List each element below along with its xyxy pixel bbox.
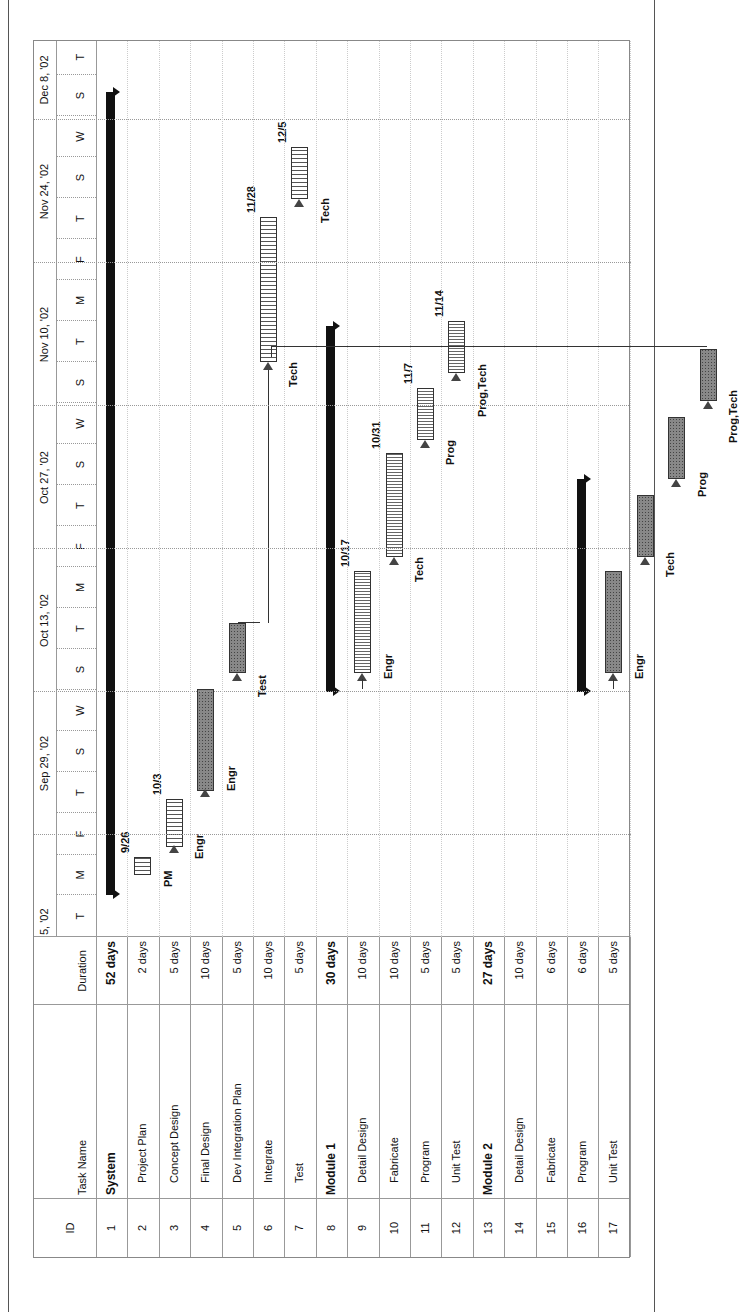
row-gridline [316, 41, 317, 937]
bar-dev-integration-plan[interactable] [229, 623, 246, 673]
table-row[interactable]: 5Dev Integration Plan5 days [222, 937, 253, 1257]
row-gridline [347, 41, 348, 937]
bar-fabricate-m2[interactable] [637, 495, 654, 557]
task-name: Fabricate [382, 1137, 407, 1183]
timescale-minor-tick: M [74, 280, 86, 321]
table-row[interactable]: 3Concept Design5 days [159, 937, 190, 1257]
timescale-tick-line [56, 279, 96, 280]
timescale-divider [56, 41, 57, 937]
finish-date-label: 11/7 [402, 363, 414, 384]
bar-project-plan[interactable] [134, 857, 151, 875]
timescale-minor-tick: W [74, 116, 86, 157]
dependency-line [271, 347, 272, 357]
dependency-arrow [169, 845, 179, 853]
resource-label: Prog [444, 440, 456, 465]
bar-unit-test-m1[interactable] [448, 321, 465, 373]
table-row[interactable]: 2Project Plan2 days [127, 937, 158, 1257]
table-row[interactable]: 14Detail Design10 days [504, 937, 535, 1257]
timescale-minor-tick: T [74, 321, 86, 362]
row-gridline [284, 41, 285, 937]
task-name: Test [287, 1163, 312, 1183]
summary-bar-module-1[interactable] [326, 326, 335, 692]
resource-label: Tech [413, 557, 425, 582]
task-name: Concept Design [162, 1105, 187, 1183]
timescale-minor-tick: S [74, 649, 86, 690]
bar-fabricate-m1[interactable] [386, 453, 403, 557]
row-gridline [410, 41, 411, 937]
timescale-tick-line [56, 566, 96, 567]
bar-test[interactable] [291, 147, 308, 199]
bar-program-m1[interactable] [417, 388, 434, 440]
bar-detail-design-m1[interactable] [354, 571, 371, 673]
row-gridline [159, 41, 160, 937]
bar-program-m2[interactable] [668, 417, 685, 479]
header-id: ID [64, 1199, 76, 1257]
timescale-minor-tick: S [74, 157, 86, 198]
table-row[interactable]: 6Integrate10 days [253, 937, 284, 1257]
table-row[interactable]: 8Module 130 days [316, 937, 347, 1257]
task-id: 8 [319, 1199, 344, 1257]
task-name: Program [413, 1141, 438, 1183]
timescale-tick-line [56, 115, 96, 116]
timescale-minor-tick: W [74, 690, 86, 731]
bar-detail-design-m2[interactable] [605, 571, 622, 673]
timescale-minor-tick: W [74, 403, 86, 444]
dependency-arrow [703, 401, 713, 409]
dependency-arrow [671, 479, 681, 487]
timescale-tick-line [56, 443, 96, 444]
task-duration: 10 days [507, 941, 532, 1005]
task-id: 16 [570, 1199, 595, 1257]
table-row[interactable]: 15Fabricate6 days [536, 937, 567, 1257]
timescale-minor-tick: T [74, 772, 86, 813]
bar-concept-design[interactable] [166, 799, 183, 847]
timescale-minor-tick: F [74, 239, 86, 280]
task-duration: 52 days [99, 941, 124, 1005]
timescale-tick-line [56, 156, 96, 157]
table-row[interactable]: 10Fabricate10 days [379, 937, 410, 1257]
table-row[interactable]: 16Program6 days [567, 937, 598, 1257]
summary-bar-module-2[interactable] [577, 479, 586, 692]
timescale-tick-line [56, 689, 96, 690]
table-row[interactable]: 7Test5 days [284, 937, 315, 1257]
task-duration: 6 days [539, 941, 564, 1005]
table-row[interactable]: 9Detail Design10 days [347, 937, 378, 1257]
task-id: 6 [256, 1199, 281, 1257]
bar-integrate[interactable] [260, 217, 277, 362]
timescale-tick-line [56, 648, 96, 649]
timescale-minor-tick: S [74, 444, 86, 485]
bar-unit-test-m2[interactable] [700, 349, 717, 401]
table-row[interactable]: 11Program5 days [410, 937, 441, 1257]
task-id: 9 [350, 1199, 375, 1257]
task-name: Final Design [193, 1122, 218, 1183]
summary-bar-system[interactable] [106, 92, 115, 895]
resource-label: Engr [633, 654, 645, 679]
row-gridline [222, 41, 223, 937]
timescale-tick-line [56, 74, 96, 75]
table-row[interactable]: 1System52 days [96, 937, 127, 1257]
task-duration: 5 days [162, 941, 187, 1005]
task-name: Unit Test [601, 1140, 626, 1183]
resource-label: Engr [225, 766, 237, 791]
resource-label: Engr [193, 834, 205, 859]
task-name: Program [570, 1141, 595, 1183]
table-row[interactable]: 4Final Design10 days [190, 937, 221, 1257]
dependency-line [271, 345, 707, 347]
table-row[interactable]: 13Module 227 days [473, 937, 504, 1257]
timescale-minor-tick: T [74, 198, 86, 239]
timescale-tick-line [56, 484, 96, 485]
table-row[interactable]: 12Unit Test5 days [441, 937, 472, 1257]
task-name: Detail Design [350, 1118, 375, 1183]
resource-label: Prog [696, 472, 708, 497]
finish-date-label: 11/28 [245, 186, 257, 213]
task-id: 13 [476, 1199, 501, 1257]
row-gridline [598, 41, 599, 937]
task-duration: 5 days [413, 941, 438, 1005]
dependency-arrow [263, 362, 273, 370]
timescale-minor-tick: S [74, 75, 86, 116]
timescale-minor-tick: F [74, 526, 86, 567]
table-row[interactable]: 17Unit Test5 days [598, 937, 629, 1257]
chart-area: PM 9/26 Engr 10/3 Engr Test Tech 11/28 T… [96, 39, 631, 937]
bar-final-design[interactable] [197, 689, 214, 791]
row-divider [630, 937, 631, 1257]
